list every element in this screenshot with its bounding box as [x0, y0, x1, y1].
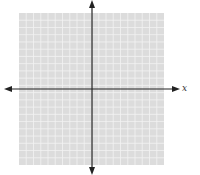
y-axis-down-arrow-icon	[89, 167, 95, 175]
y-axis-up-arrow-icon	[89, 0, 95, 8]
x-axis-label: x	[182, 83, 187, 93]
x-axis-right-arrow-icon	[172, 86, 180, 92]
coordinate-plane	[0, 0, 200, 175]
x-axis-left-arrow-icon	[4, 86, 12, 92]
